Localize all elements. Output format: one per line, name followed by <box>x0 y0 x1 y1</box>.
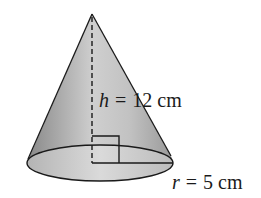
radius-equals: = <box>186 171 197 193</box>
radius-value: 5 cm <box>203 171 243 193</box>
height-variable: h <box>99 89 109 111</box>
radius-label: r=5 cm <box>172 171 243 193</box>
height-equals: = <box>115 89 126 111</box>
cone-diagram: h=12 cm r=5 cm <box>0 0 261 198</box>
radius-variable: r <box>172 171 180 193</box>
cone-figure: h=12 cm r=5 cm <box>0 0 261 198</box>
height-value: 12 cm <box>132 89 182 111</box>
